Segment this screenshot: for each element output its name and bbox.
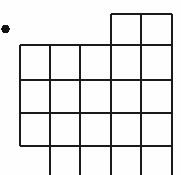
figure-background (0, 0, 181, 175)
grid-figure-svg (0, 0, 181, 175)
bullet-dot-icon (1, 25, 9, 33)
grid-figure-container (0, 0, 181, 175)
